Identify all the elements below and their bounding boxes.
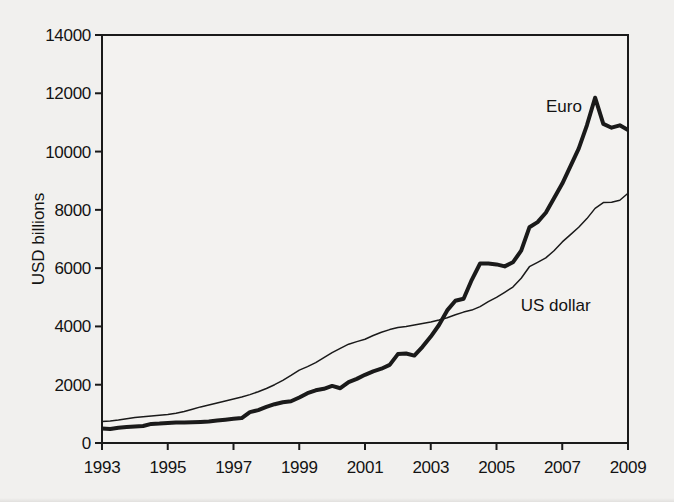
y-axis-tick-label: 4000	[54, 317, 91, 336]
x-axis-tick-label: 2009	[610, 458, 647, 477]
x-axis-tick-label: 2003	[412, 458, 449, 477]
x-axis-tick-label: 1993	[84, 458, 121, 477]
x-axis-tick-label: 1995	[149, 458, 186, 477]
y-axis-tick-label: 14000	[45, 26, 91, 45]
scan-artifact	[0, 498, 674, 502]
y-axis-tick-label: 6000	[54, 259, 91, 278]
scanned-page: 0200040006000800010000120001400019931995…	[0, 0, 674, 502]
x-axis-tick-label: 2001	[347, 458, 384, 477]
y-axis-title: USD billions	[29, 193, 48, 286]
euro-label: Euro	[546, 97, 582, 116]
line-chart-figure: 0200040006000800010000120001400019931995…	[0, 0, 674, 502]
x-axis-tick-label: 1997	[215, 458, 252, 477]
y-axis-tick-label: 10000	[45, 143, 91, 162]
y-axis-tick-label: 12000	[45, 84, 91, 103]
x-axis-tick-label: 2007	[544, 458, 581, 477]
y-axis-tick-label: 0	[82, 434, 91, 453]
y-axis-tick-label: 8000	[54, 201, 91, 220]
x-axis-tick-label: 2005	[478, 458, 515, 477]
y-axis-tick-label: 2000	[54, 376, 91, 395]
chart-canvas: 0200040006000800010000120001400019931995…	[0, 0, 674, 502]
us-dollar-label: US dollar	[521, 296, 591, 315]
x-axis-tick-label: 1999	[281, 458, 318, 477]
